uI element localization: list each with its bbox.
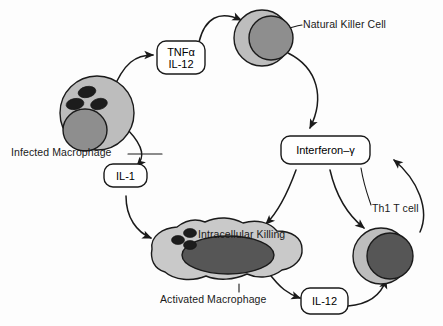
cell-natural-killer: [234, 10, 293, 66]
arrow-nk-to-interferon: [288, 53, 318, 128]
arrow-th1-to-interferon: [394, 160, 424, 232]
cytokine-label-il12-bottom: IL-12: [312, 295, 337, 307]
granule: [184, 229, 197, 238]
leader-th1-t-cell: [361, 168, 371, 205]
cytokine-label-interferon-wrap: Interferon–γ: [281, 136, 370, 164]
immune-cycle-diagram: TNFα IL-12 IL-1 Interferon–γ IL-12 Infec…: [0, 0, 443, 326]
cytokine-label-il12-wrap: IL-12: [301, 288, 348, 314]
diagram-canvas: [0, 0, 443, 326]
cell-label-infected-macrophage: Infected Macrophage: [11, 146, 112, 158]
inner-label-intracellular-killing: Intracellular Killing: [198, 228, 285, 240]
cytokine-label-tnfa-il12: TNFα IL-12: [157, 41, 205, 74]
cell-label-natural-killer-cell: Natural Killer Cell: [303, 18, 386, 30]
cell-th1-t: [353, 228, 413, 284]
arrow-interferon-to-th1: [330, 170, 364, 228]
arrow-macrophage-to-il1: [128, 130, 142, 166]
cytokine-label-interferon-gamma: Interferon–γ: [296, 144, 355, 156]
cytokine-label-il12-top: IL-12: [168, 58, 193, 70]
cytokine-label-tnfa: TNFα: [167, 46, 195, 58]
cell-infected-macrophage: [60, 76, 134, 151]
cytokine-label-il1: IL-1: [116, 170, 135, 182]
granule: [184, 241, 197, 250]
cell-label-th1-t-cell: Th1 T cell: [372, 202, 419, 214]
granule: [172, 236, 185, 245]
arrow-interferon-to-activated-macrophage: [266, 170, 296, 224]
cytokine-label-il1-wrap: IL-1: [104, 164, 147, 187]
cell-label-activated-macrophage: Activated Macrophage: [160, 293, 266, 305]
arrow-activated-macrophage-to-il12: [268, 272, 300, 298]
arrow-il1-to-activated-macrophage: [126, 196, 151, 238]
